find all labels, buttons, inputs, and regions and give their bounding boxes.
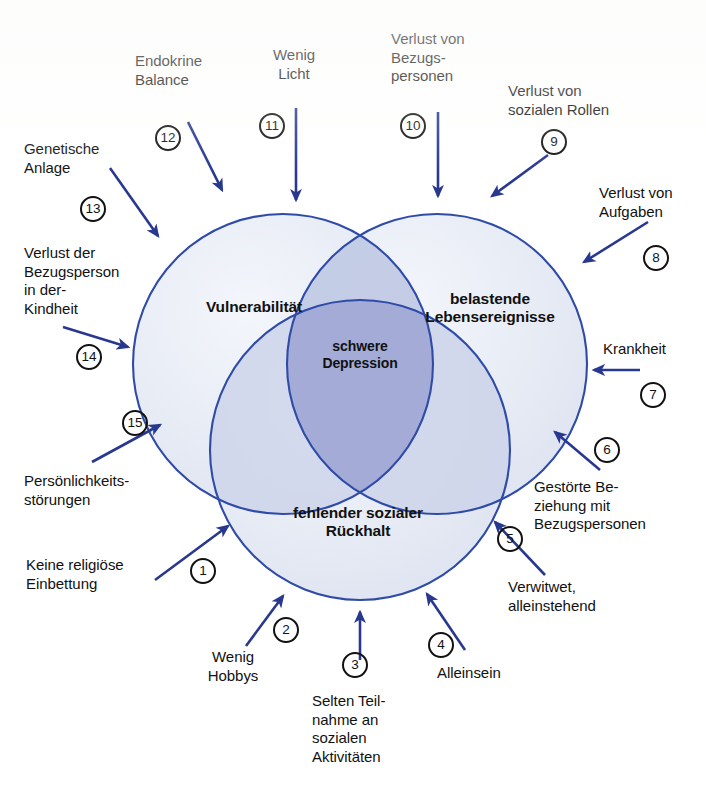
- factor-label-15: Persönlichkeits- störungen: [24, 472, 194, 509]
- factor-badge-4: 4: [428, 632, 454, 658]
- set-label-vulnerability: Vulnerabilität: [174, 298, 334, 316]
- factor-badge-15: 15: [122, 410, 148, 436]
- factor-label-6: Gestörte Be- ziehung mit Bezugspersonen: [534, 478, 704, 534]
- factor-label-8: Verlust von Aufgaben: [599, 184, 706, 221]
- diagram-canvas: Vulnerabilität belastende Lebensereignis…: [0, 0, 706, 798]
- factor-label-12: Endokrine Balance: [135, 52, 265, 89]
- venn-pair-overlaps: [210, 214, 587, 600]
- factor-badge-3: 3: [342, 652, 368, 678]
- factor-badge-8: 8: [643, 245, 669, 271]
- factor-badge-7: 7: [640, 382, 666, 408]
- arrow-9: [492, 155, 548, 196]
- arrow-8: [584, 222, 648, 262]
- factor-badge-11: 11: [259, 113, 285, 139]
- factor-badge-12: 12: [155, 125, 181, 151]
- factor-badge-1: 1: [190, 558, 216, 584]
- factor-badge-13: 13: [80, 196, 106, 222]
- factor-badge-6: 6: [594, 437, 620, 463]
- factor-badge-10: 10: [400, 113, 426, 139]
- factor-label-9: Verlust von sozialen Rollen: [508, 82, 668, 119]
- factor-badge-9: 9: [541, 129, 567, 155]
- factor-label-4: Alleinsein: [437, 664, 557, 683]
- factor-label-7: Krankheit: [603, 340, 706, 359]
- factor-badge-5: 5: [497, 526, 523, 552]
- arrow-14: [63, 327, 128, 347]
- factor-label-2: Wenig Hobbys: [178, 648, 288, 685]
- arrow-12: [188, 122, 222, 190]
- factor-label-10: Verlust von Bezugs- personen: [391, 30, 509, 86]
- factor-badge-14: 14: [76, 344, 102, 370]
- venn-diagram-graphic: [0, 0, 706, 798]
- factor-label-14: Verlust der Bezugsperson in der- Kindhei…: [24, 244, 172, 318]
- arrow-13: [110, 168, 158, 236]
- set-label-severe-depression: schwere Depression: [300, 338, 420, 371]
- factor-label-1: Keine religiöse Einbettung: [26, 556, 201, 593]
- factor-label-5: Verwitwet, alleinstehend: [508, 578, 668, 615]
- factor-label-3: Selten Teil- nahme an sozialen Aktivität…: [312, 692, 432, 766]
- paper-tint-overlay: [0, 0, 706, 798]
- set-label-life-events: belastende Lebensereignisse: [404, 290, 576, 327]
- factor-badge-2: 2: [273, 617, 299, 643]
- factor-label-13: Genetische Anlage: [24, 140, 154, 177]
- set-label-social-support: fehlender sozialer Rückhalt: [258, 504, 458, 541]
